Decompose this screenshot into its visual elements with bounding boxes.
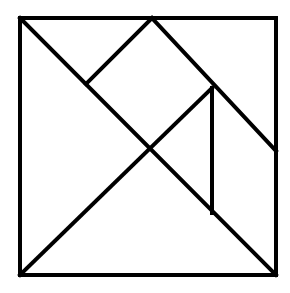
edge-topmid-left (86, 18, 152, 84)
tangram-svg (0, 0, 290, 293)
tangram-diagram (0, 0, 290, 293)
